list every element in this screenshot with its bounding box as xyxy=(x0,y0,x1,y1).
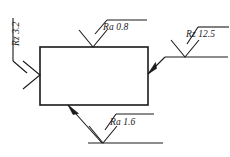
leader-arrowhead-right xyxy=(148,63,157,75)
roughness-triangle-right xyxy=(171,40,199,57)
roughness-triangle-bottom xyxy=(89,126,117,143)
part-rectangle xyxy=(40,47,148,105)
leader-arrowhead-bottom xyxy=(68,105,79,115)
roughness-label-top: Ra 0.8 xyxy=(103,23,128,33)
roughness-label-right: Rz 12.5 xyxy=(186,30,215,40)
roughness-label-bottom: Ra 1.6 xyxy=(110,118,135,128)
engineering-drawing-canvas: Ra 0.8 Rz 12.5 Ra 1.6 Rz 3.2 xyxy=(0,0,230,157)
roughness-triangle-left xyxy=(23,61,40,89)
roughness-label-left: Rz 3.2 xyxy=(12,22,22,46)
roughness-triangle-top xyxy=(79,30,107,47)
